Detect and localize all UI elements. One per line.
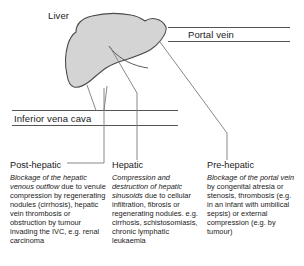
ivc-leader-line	[87, 85, 96, 111]
label-portal-vein: Portal vein	[188, 29, 234, 40]
label-inferior-vena-cava: Inferior vena cava	[14, 113, 91, 124]
note-post-hepatic: Post-hepatic Blockage of the hepatic ven…	[10, 160, 106, 245]
note-hepatic-text: due to cellular infiltration, fibrosis o…	[112, 191, 198, 245]
note-pre-hepatic-text: by congenital atresia or stenosis, throm…	[207, 182, 291, 236]
note-pre-hepatic: Pre-hepatic Blockage of the portal vein …	[207, 160, 297, 236]
note-post-hepatic-heading: Post-hepatic	[10, 160, 106, 172]
pre-hepatic-leader-line	[160, 42, 227, 160]
note-post-hepatic-text: due to venule compression by regeneratin…	[10, 182, 106, 246]
note-pre-hepatic-emphasis: Blockage of the portal vein	[207, 173, 294, 182]
label-liver: Liver	[48, 10, 69, 21]
note-pre-hepatic-body: Blockage of the portal vein by congenita…	[207, 173, 297, 237]
note-hepatic-body: Compression and destruction of hepatic s…	[112, 173, 200, 246]
liver-portal-hypertension-figure: Liver Portal vein Inferior vena cava Pos…	[0, 0, 304, 266]
note-hepatic-heading: Hepatic	[112, 160, 200, 172]
note-hepatic: Hepatic Compression and destruction of h…	[112, 160, 200, 245]
note-pre-hepatic-heading: Pre-hepatic	[207, 160, 297, 172]
note-post-hepatic-body: Blockage of the hepatic venous outflow d…	[10, 173, 106, 246]
liver-shape	[66, 14, 167, 88]
